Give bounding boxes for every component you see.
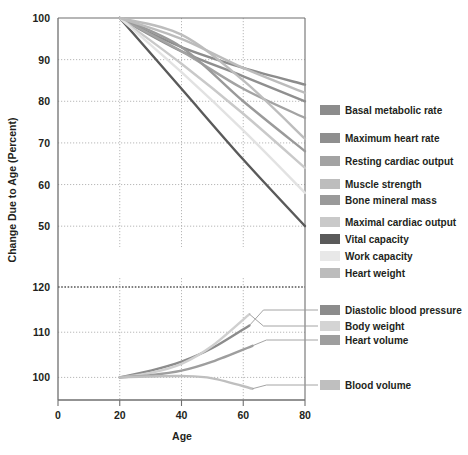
legend-label: Diastolic blood pressure	[345, 305, 462, 316]
legend-swatch	[320, 251, 340, 261]
legend-swatch	[320, 217, 340, 227]
x-tick-label: 40	[176, 409, 188, 421]
legend-label: Vital capacity	[345, 234, 409, 245]
legend-swatch	[320, 133, 340, 143]
legend-swatch	[320, 268, 340, 278]
legend-label: Work capacity	[345, 251, 413, 262]
legend-swatch	[320, 234, 340, 244]
x-axis-title: Age	[172, 430, 192, 442]
legend-label: Muscle strength	[345, 179, 422, 190]
aging-physiology-chart: 0204060801009080706050120110100 Change D…	[0, 0, 468, 455]
legend-swatch	[320, 335, 340, 345]
legend-label: Body weight	[345, 321, 405, 332]
legend-label: Resting cardiac output	[345, 156, 454, 167]
y-tick-label-lower: 100	[32, 371, 50, 383]
legend-swatch	[320, 305, 340, 315]
y-tick-label-upper: 60	[38, 179, 50, 191]
y-tick-label-lower: 120	[32, 281, 50, 293]
legend-label: Basal metabolic rate	[345, 105, 443, 116]
y-tick-label-upper: 80	[38, 95, 50, 107]
y-tick-label-upper: 90	[38, 54, 50, 66]
legend-label: Heart weight	[345, 268, 406, 279]
legend-swatch	[320, 156, 340, 166]
legend-swatch	[320, 380, 340, 390]
legend-swatch	[320, 105, 340, 115]
legend-label: Maximal cardiac output	[345, 217, 457, 228]
legend-swatch	[320, 321, 340, 331]
y-axis-title: Change Due to Age (Percent)	[6, 118, 18, 263]
legend-label: Bone mineral mass	[345, 195, 437, 206]
x-tick-label: 0	[55, 409, 61, 421]
legend-swatch	[320, 179, 340, 189]
y-tick-label-upper: 50	[38, 220, 50, 232]
legend-label: Maximum heart rate	[345, 133, 440, 144]
legend-label: Heart volume	[345, 335, 409, 346]
y-tick-label-upper: 100	[32, 12, 50, 24]
x-tick-label: 20	[114, 409, 126, 421]
legend-label: Blood volume	[345, 380, 412, 391]
x-tick-label: 80	[299, 409, 311, 421]
x-tick-label: 60	[237, 409, 249, 421]
y-tick-label-upper: 70	[38, 137, 50, 149]
chart-svg: 0204060801009080706050120110100 Change D…	[0, 0, 468, 455]
legend-swatch	[320, 195, 340, 205]
y-tick-label-lower: 110	[33, 326, 50, 338]
